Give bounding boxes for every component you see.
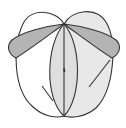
sphere-diagram bbox=[0, 0, 126, 128]
diagram-canvas bbox=[0, 0, 126, 128]
axis-tick bbox=[64, 68, 65, 72]
